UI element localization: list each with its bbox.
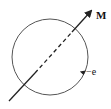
moment-axis-hidden-segment bbox=[35, 32, 72, 73]
moment-label: M bbox=[96, 9, 107, 21]
charge-label: −e bbox=[86, 66, 97, 77]
diagram-canvas: M −e bbox=[0, 0, 111, 109]
moment-axis-front-segment bbox=[9, 73, 35, 101]
moment-vector-arrow bbox=[72, 11, 91, 32]
